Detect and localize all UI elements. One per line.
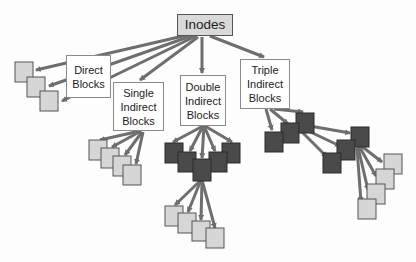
inodes-box: Inodes (177, 14, 233, 36)
triple-indirect-blocks-box: Triple Indirect Blocks (240, 59, 290, 109)
triple-indirect-blocks-label: Triple Indirect Blocks (247, 63, 283, 105)
single-indirect-blocks-label: Single Indirect Blocks (120, 86, 156, 128)
double-indirect-blocks-label: Double Indirect Blocks (185, 80, 221, 122)
inode-diagram: Inodes Direct Blocks Single Indirect Blo… (0, 0, 416, 262)
triple-indirect-data-blocks (358, 154, 402, 219)
inodes-label: Inodes (185, 18, 226, 32)
diagram-graphics (0, 0, 416, 262)
direct-blocks-label: Direct Blocks (72, 63, 104, 91)
direct-blocks-box: Direct Blocks (66, 55, 111, 98)
single-indirect-blocks-box: Single Indirect Blocks (113, 82, 164, 131)
double-indirect-blocks-box: Double Indirect Blocks (180, 75, 226, 126)
triple-indirect-level1-blocks (265, 113, 314, 152)
